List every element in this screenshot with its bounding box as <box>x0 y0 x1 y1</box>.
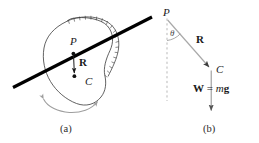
label-theta-angle: θ <box>170 29 174 38</box>
caption-panel-a: (a) <box>60 124 72 135</box>
label-weight-equation: W = mg <box>193 83 229 94</box>
label-pivot-p-panel-a: P <box>70 36 77 47</box>
weight-mass-symbol: m <box>216 82 224 94</box>
label-center-of-mass-c-panel-b: C <box>216 64 223 75</box>
label-pivot-p-panel-b: P <box>163 7 170 18</box>
weight-symbol-w: W <box>193 82 204 94</box>
weight-gravity-symbol: g <box>224 82 230 94</box>
rigid-body-outline <box>43 18 112 105</box>
label-vector-r-panel-b: R <box>196 34 204 45</box>
pivot-point-dot-a <box>72 52 76 56</box>
weight-equals-sign: = <box>204 82 216 94</box>
center-of-mass-dot-a <box>73 74 77 78</box>
label-vector-r-panel-a: R <box>79 57 87 68</box>
physics-figure: P R C (a) P θ R C W = mg (b) <box>0 0 259 143</box>
caption-panel-b: (b) <box>203 124 215 135</box>
label-center-of-mass-c-panel-a: C <box>85 76 92 87</box>
